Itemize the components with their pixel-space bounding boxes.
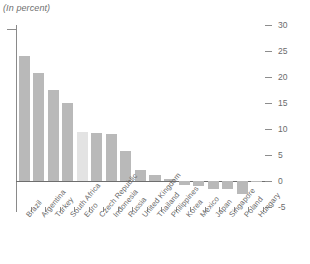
x-axis-tick: [234, 207, 235, 212]
x-axis-tick: [45, 207, 46, 212]
unit-note: (In percent): [3, 3, 50, 13]
y-tick-dash-icon: [265, 155, 272, 156]
y-axis-tick-label: 0: [278, 176, 283, 187]
y-axis-tick-label: 10: [278, 124, 287, 135]
bar-slot: [32, 25, 47, 207]
bar-slot: [177, 25, 192, 207]
x-axis-tick: [176, 207, 177, 212]
bar: [91, 133, 102, 181]
bar-slot: [104, 25, 119, 207]
y-tick-dash-icon: [265, 25, 272, 26]
x-axis-tick: [31, 207, 32, 212]
bar: [222, 181, 233, 189]
x-axis-tick: [16, 207, 17, 212]
bar-slot: [17, 25, 32, 207]
bar-slot: [90, 25, 105, 207]
bar: [149, 175, 160, 181]
bar-slot: [235, 25, 250, 207]
bar: [48, 90, 59, 181]
bar-slot: [191, 25, 206, 207]
top-dash-marker: [7, 29, 16, 30]
y-axis-tick-label: 20: [278, 72, 287, 83]
y-tick-dash-icon: [265, 51, 272, 52]
bar: [193, 181, 204, 186]
y-tick-dash-icon: [265, 181, 272, 182]
bar-chart: (In percent) 302520151050-5 BrazilArgent…: [0, 0, 310, 264]
x-axis-tick: [161, 207, 162, 212]
bar: [179, 181, 190, 185]
x-axis-tick: [118, 207, 119, 212]
bar-slot: [75, 25, 90, 207]
x-axis-tick: [248, 207, 249, 212]
bar: [33, 73, 44, 181]
x-axis-tick: [263, 207, 264, 212]
y-axis-tick-label: 30: [278, 20, 287, 31]
bar-series: [17, 25, 265, 207]
y-axis-tick-label: 25: [278, 46, 287, 57]
bar-slot: [249, 25, 264, 207]
bar-slot: [220, 25, 235, 207]
bar: [208, 181, 219, 189]
x-axis-tick: [132, 207, 133, 212]
x-axis-tick: [219, 207, 220, 212]
bar-slot: [119, 25, 134, 207]
bar: [62, 103, 73, 181]
bar-slot: [133, 25, 148, 207]
bar: [164, 179, 175, 181]
x-axis: [16, 207, 265, 215]
bar: [77, 132, 88, 181]
bar: [106, 134, 117, 181]
bar: [251, 181, 262, 182]
y-axis: 302520151050-5: [265, 25, 310, 215]
bar-slot: [206, 25, 221, 207]
bar-slot: [162, 25, 177, 207]
y-axis-tick-label: 15: [278, 98, 287, 109]
y-tick-dash-icon: [265, 77, 272, 78]
x-axis-tick: [89, 207, 90, 212]
y-axis-tick-label: -5: [278, 202, 286, 213]
x-axis-tick: [103, 207, 104, 212]
bar: [135, 170, 146, 181]
x-axis-tick: [205, 207, 206, 212]
x-axis-tick: [147, 207, 148, 212]
bar-slot: [148, 25, 163, 207]
y-tick-dash-icon: [265, 207, 272, 208]
bar: [120, 151, 131, 181]
x-axis-tick: [190, 207, 191, 212]
bar-slot: [61, 25, 76, 207]
bar: [19, 56, 30, 181]
y-axis-tick-label: 5: [278, 150, 283, 161]
y-tick-dash-icon: [265, 103, 272, 104]
plot-area: [16, 25, 265, 207]
x-axis-tick: [60, 207, 61, 212]
bar: [237, 181, 248, 194]
y-tick-dash-icon: [265, 129, 272, 130]
x-axis-tick: [74, 207, 75, 212]
bar-slot: [46, 25, 61, 207]
